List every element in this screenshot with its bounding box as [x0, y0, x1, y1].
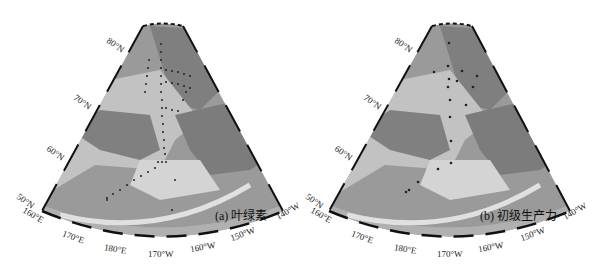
lon-label-170w: 170°W — [437, 249, 463, 259]
panel-caption-a: (a) 叶绿素 — [215, 206, 267, 224]
map-panel-chlorophyll: 80°N 70°N 60°N 50°N 160°E 170°E 180°E 17… — [0, 0, 302, 269]
panel-caption-b: (b) 初级生产力 — [480, 206, 557, 224]
map-primary-productivity — [300, 0, 605, 269]
map-chlorophyll — [0, 0, 302, 269]
map-panel-primary-productivity: 80°N 70°N 60°N 50°N 160°E 170°E 180°E 17… — [300, 0, 602, 269]
lon-label-170w: 170°W — [148, 249, 174, 259]
